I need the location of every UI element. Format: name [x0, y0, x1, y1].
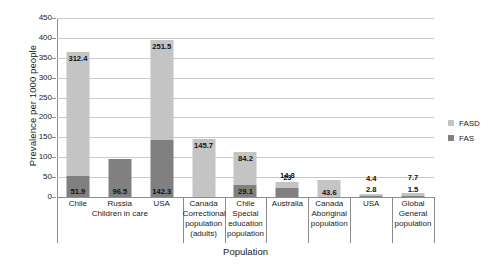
bar-value-label-fas: 23 [276, 173, 299, 197]
bar-group[interactable]: 251.5142.3 [141, 18, 183, 197]
bar-segment-fas[interactable]: 51.9 [66, 176, 89, 197]
legend-label: FAS [459, 134, 474, 143]
bar-group[interactable]: 7.71.5 [392, 18, 434, 197]
x-category-label: ChileSpecialeducationpopulation [225, 199, 267, 239]
x-category-line: Chile [225, 199, 267, 209]
bars-layer: 312.451.996.5251.5142.3145.784.229.114.8… [57, 18, 434, 197]
bar-value-label-fasd: 7.7 [402, 173, 425, 182]
legend-item[interactable]: FASD [448, 117, 480, 129]
bar-value-label-fas: 142.3 [150, 187, 173, 196]
y-tick-label: 0 [24, 193, 52, 201]
bar-value-label-fasd: 4.4 [360, 174, 383, 183]
x-axis-title: Population [57, 246, 434, 257]
x-category-label: CanadaCorrectionalpopulation(adults) [183, 199, 225, 239]
bar-segment-fasd[interactable]: 312.4 [66, 52, 89, 176]
chart-container: Prevalence per 1000 people 4504003503002… [0, 0, 498, 267]
bar-stack[interactable]: 96.5 [108, 159, 131, 197]
x-category-line: Chile [57, 199, 99, 209]
y-tick-mark [51, 98, 56, 99]
bar-value-label-fasd: 312.4 [66, 54, 89, 63]
x-category-label: CanadaAboriginalpopulation [308, 199, 350, 229]
bar-value-label-fas: 2.8 [360, 185, 383, 194]
x-category-line: population [225, 229, 267, 239]
bar-value-label-fasd: 43.6 [318, 188, 341, 197]
x-category-line: USA [350, 199, 392, 209]
x-category-line: population [308, 219, 350, 229]
x-category-line: Australia [266, 199, 308, 209]
bar-value-label-fasd: 251.5 [150, 42, 173, 51]
bar-group[interactable]: 145.7 [183, 18, 225, 197]
x-category-line: population [392, 219, 434, 229]
x-category-line: Special [225, 209, 267, 219]
y-tick-mark [51, 197, 56, 198]
y-tick-mark [51, 137, 56, 138]
bar-stack[interactable]: 43.6 [318, 180, 341, 197]
bar-value-label-fas: 29.1 [234, 187, 257, 196]
bar-stack[interactable]: 312.451.9 [66, 52, 89, 197]
x-category-line: Global [392, 199, 434, 209]
x-category-line: General [392, 209, 434, 219]
legend: FASDFAS [448, 117, 480, 147]
bar-value-label-fasd: 145.7 [192, 141, 215, 150]
x-axis-labels: ChileRussiaUSACanadaCorrectionalpopulati… [57, 197, 434, 243]
bar-group[interactable]: 96.5 [99, 18, 141, 197]
y-tick-label: 300 [24, 74, 52, 82]
x-category-line: (adults) [183, 229, 225, 239]
x-category-line: education [225, 219, 267, 229]
legend-swatch-icon [448, 120, 454, 126]
x-category-line: USA [141, 199, 183, 209]
bar-segment-fasd[interactable]: 84.2 [234, 152, 257, 185]
bar-value-label-fas: 1.5 [402, 185, 425, 194]
bar-group[interactable]: 84.229.1 [225, 18, 267, 197]
x-category-label: USA [350, 199, 392, 209]
bar-segment-fasd[interactable]: 43.6 [318, 180, 341, 197]
bar-group[interactable]: 43.6 [308, 18, 350, 197]
bar-segment-fasd[interactable]: 145.7 [192, 139, 215, 197]
x-category-label: Chile [57, 199, 99, 209]
y-tick-mark [51, 58, 56, 59]
bar-value-label-fas: 96.5 [108, 187, 131, 196]
y-tick-label: 400 [24, 34, 52, 42]
x-category-label: GlobalGeneralpopulation [392, 199, 434, 229]
y-tick-label: 100 [24, 153, 52, 161]
bar-group[interactable]: 14.823 [266, 18, 308, 197]
y-tick-label: 50 [24, 173, 52, 181]
x-category-line: Russia [99, 199, 141, 209]
legend-swatch-icon [448, 135, 454, 141]
bar-segment-fas[interactable]: 142.3 [150, 140, 173, 197]
y-tick-mark [51, 18, 56, 19]
y-tick-mark [51, 78, 56, 79]
bar-group[interactable]: 312.451.9 [57, 18, 99, 197]
x-category-line: population [183, 219, 225, 229]
y-tick-label: 350 [24, 54, 52, 62]
legend-label: FASD [459, 119, 480, 128]
bar-stack[interactable]: 251.5142.3 [150, 40, 173, 197]
legend-item[interactable]: FAS [448, 132, 480, 144]
bar-value-label-fas: 51.9 [66, 187, 89, 196]
bar-stack[interactable]: 14.823 [276, 182, 299, 197]
x-category-line: Aboriginal [308, 209, 350, 219]
y-tick-label: 450 [24, 14, 52, 22]
bar-segment-fas[interactable]: 23 [276, 188, 299, 197]
y-tick-label: 150 [24, 133, 52, 141]
x-category-line: Canada [183, 199, 225, 209]
bar-segment-fas[interactable]: 96.5 [108, 159, 131, 197]
y-tick-label: 200 [24, 113, 52, 121]
y-tick-mark [51, 157, 56, 158]
y-tick-mark [51, 177, 56, 178]
x-category-label: Australia [266, 199, 308, 209]
x-group-label: Children in care [57, 209, 183, 219]
y-tick-mark [51, 117, 56, 118]
bar-group[interactable]: 4.42.8 [350, 18, 392, 197]
bar-segment-fas[interactable]: 29.1 [234, 185, 257, 197]
x-category-label: Russia [99, 199, 141, 209]
y-tick-mark [51, 38, 56, 39]
bar-stack[interactable]: 84.229.1 [234, 152, 257, 197]
y-tick-label: 250 [24, 94, 52, 102]
x-category-label: USA [141, 199, 183, 209]
x-category-line: Canada [308, 199, 350, 209]
bar-stack[interactable]: 145.7 [192, 139, 215, 197]
x-category-line: Correctional [183, 209, 225, 219]
bar-segment-fasd[interactable]: 251.5 [150, 40, 173, 140]
bar-value-label-fasd: 84.2 [234, 154, 257, 163]
